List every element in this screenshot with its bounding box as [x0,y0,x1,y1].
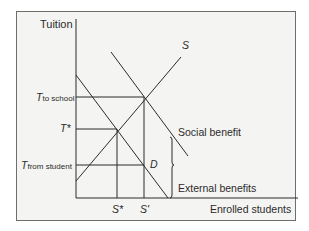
tick-t-from-student: Tfrom student [21,160,72,171]
tick-s-star: S* [112,204,123,215]
demand-label: D [150,159,158,170]
y-axis-label: Tuition [40,19,73,30]
demand-curve [76,75,168,198]
social-benefit-curve [111,52,188,156]
diagram-graphic [0,0,309,231]
external-benefits-label: External benefits [178,183,256,194]
social-benefit-label: Social benefit [178,127,241,138]
tick-t-to-school: Tto school [36,92,74,103]
tick-s-prime: S' [140,204,149,215]
tick-t-star: T* [60,123,71,134]
x-axis-label: Enrolled students [210,204,291,215]
external-benefits-brace [170,137,174,198]
supply-label: S [182,40,189,51]
